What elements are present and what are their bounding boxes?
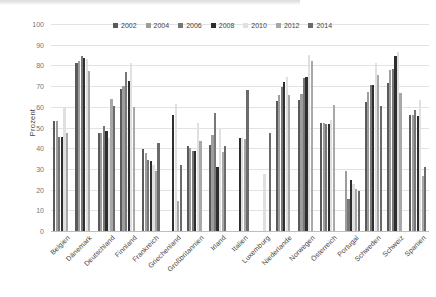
y-tick-80: 80 <box>36 62 44 69</box>
bar[interactable] <box>263 174 265 231</box>
bar[interactable] <box>157 143 159 231</box>
bar-group <box>385 24 407 231</box>
bar[interactable] <box>199 141 201 231</box>
bar-group <box>140 24 162 231</box>
legend-swatch-icon <box>113 23 118 28</box>
legend-swatch-icon <box>211 23 216 28</box>
x-label-spanien: Spanien <box>403 234 427 258</box>
legend-swatch-icon <box>178 23 183 28</box>
bar[interactable] <box>399 93 401 231</box>
bar-group <box>362 24 384 231</box>
bar-group <box>318 24 340 231</box>
legend-swatch-icon <box>308 23 313 28</box>
legend-label: 2002 <box>121 22 137 29</box>
bar[interactable] <box>424 167 426 231</box>
bar-group <box>229 24 251 231</box>
bar[interactable] <box>269 133 271 231</box>
bar-group <box>73 24 95 231</box>
y-tick-50: 50 <box>36 124 44 131</box>
legend-label: 2006 <box>186 22 202 29</box>
legend-item-2012[interactable]: 2012 <box>276 22 300 29</box>
y-tick-40: 40 <box>36 145 44 152</box>
legend-item-2006[interactable]: 2006 <box>178 22 202 29</box>
legend-item-2008[interactable]: 2008 <box>211 22 235 29</box>
legend-item-2002[interactable]: 2002 <box>113 22 137 29</box>
bar-group <box>162 24 184 231</box>
legend-swatch-icon <box>243 23 248 28</box>
bar[interactable] <box>88 71 90 231</box>
bar[interactable] <box>246 90 248 231</box>
y-tick-100: 100 <box>32 21 44 28</box>
y-tick-70: 70 <box>36 83 44 90</box>
bar-group <box>251 24 273 231</box>
bar-group <box>95 24 117 231</box>
bar[interactable] <box>133 107 135 231</box>
bar-group <box>340 24 362 231</box>
legend-swatch-icon <box>146 23 151 28</box>
y-tick-10: 10 <box>36 207 44 214</box>
legend-item-2004[interactable]: 2004 <box>146 22 170 29</box>
y-tick-20: 20 <box>36 186 44 193</box>
bar[interactable] <box>380 106 382 231</box>
bar-group <box>207 24 229 231</box>
chart-legend: 2002200420062008201020122014 <box>113 20 332 31</box>
bar-group <box>51 24 73 231</box>
bar[interactable] <box>180 165 182 231</box>
bar[interactable] <box>224 146 226 231</box>
y-axis-tick-labels: 0102030405060708090100 <box>0 24 49 231</box>
bar[interactable] <box>311 61 313 231</box>
x-label-italien: Italien <box>230 234 249 253</box>
bar[interactable] <box>113 106 115 231</box>
bar[interactable] <box>333 105 335 231</box>
bar-group <box>296 24 318 231</box>
bar[interactable] <box>288 95 290 231</box>
bar-group <box>184 24 206 231</box>
y-tick-90: 90 <box>36 41 44 48</box>
x-axis-category-labels: BelgienDänemarkDeutschlandFinnlandFrankr… <box>51 231 429 297</box>
bar[interactable] <box>66 133 68 231</box>
bar-group <box>407 24 429 231</box>
y-tick-60: 60 <box>36 103 44 110</box>
x-label-schweiz: Schweiz <box>381 234 405 258</box>
legend-item-2014[interactable]: 2014 <box>308 22 332 29</box>
legend-label: 2004 <box>154 22 170 29</box>
legend-label: 2014 <box>316 22 332 29</box>
x-label-irland: Irland <box>209 234 227 252</box>
legend-label: 2012 <box>284 22 300 29</box>
bar-series-container <box>51 24 429 231</box>
bar-group <box>118 24 140 231</box>
legend-label: 2010 <box>251 22 267 29</box>
bar-group <box>273 24 295 231</box>
bar[interactable] <box>358 191 360 231</box>
legend-label: 2008 <box>219 22 235 29</box>
legend-swatch-icon <box>276 23 281 28</box>
y-tick-0: 0 <box>40 228 44 235</box>
legend-item-2010[interactable]: 2010 <box>243 22 267 29</box>
bar-chart: Prozent 0102030405060708090100 BelgienDä… <box>0 0 436 297</box>
y-tick-30: 30 <box>36 165 44 172</box>
plot-area <box>51 24 429 231</box>
